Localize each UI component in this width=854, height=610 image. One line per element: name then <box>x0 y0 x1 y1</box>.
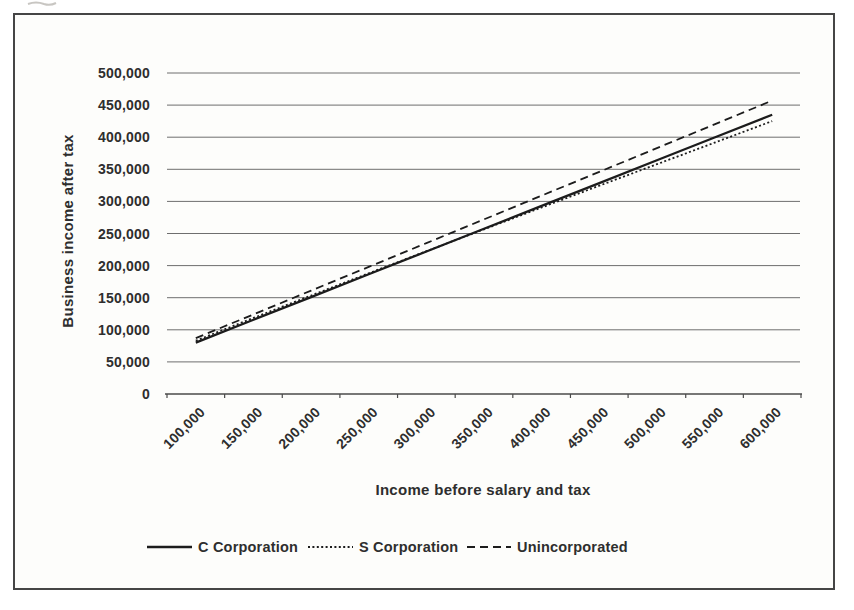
y-tick-label: 500,000 <box>98 65 150 81</box>
legend-label-unincorporated: Unincorporated <box>517 539 628 555</box>
y-axis-title: Business income after tax <box>59 134 76 328</box>
x-axis-title: Income before salary and tax <box>375 481 591 498</box>
y-tick-label: 400,000 <box>98 129 150 145</box>
y-tick-label: 50,000 <box>106 354 150 370</box>
scan-artifact <box>28 3 56 5</box>
y-tick-label: 350,000 <box>98 161 150 177</box>
y-tick-label: 300,000 <box>98 193 150 209</box>
chart: 500,000450,000400,000350,000300,000250,0… <box>0 0 854 610</box>
y-tick-label: 250,000 <box>98 226 150 242</box>
y-tick-label: 200,000 <box>98 258 150 274</box>
legend-label-c-corporation: C Corporation <box>198 539 298 555</box>
y-tick-label: 150,000 <box>98 290 150 306</box>
y-tick-label: 450,000 <box>98 97 150 113</box>
legend: C Corporation S Corporation Unincorporat… <box>147 539 628 555</box>
y-tick-label: 100,000 <box>98 322 150 338</box>
legend-label-s-corporation: S Corporation <box>359 539 458 555</box>
y-tick-label: 0 <box>142 386 150 402</box>
